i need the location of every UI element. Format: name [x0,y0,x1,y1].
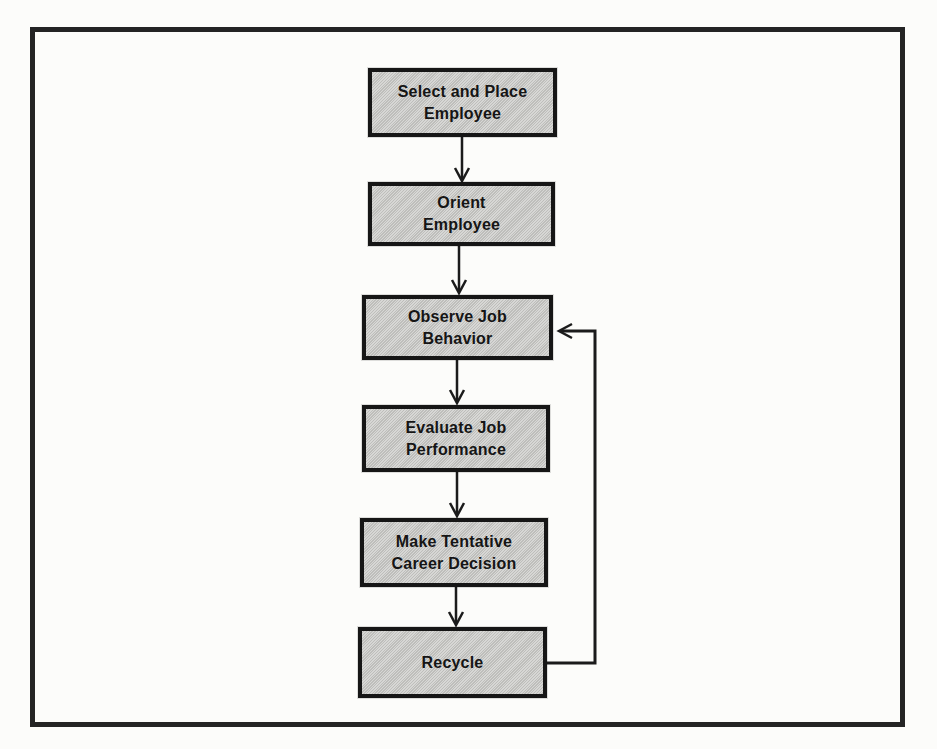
flow-node-orient-employee: Orient Employee [368,182,555,246]
flow-node-select-and-place-employee: Select and Place Employee [368,68,557,137]
flow-node-evaluate-job-performance: Evaluate Job Performance [362,405,550,472]
flow-node-observe-job-behavior: Observe Job Behavior [362,295,553,360]
flow-node-make-tentative-career-decision: Make Tentative Career Decision [360,518,548,587]
figure-canvas: Select and Place Employee Orient Employe… [0,0,937,749]
flow-node-recycle: Recycle [358,627,547,698]
